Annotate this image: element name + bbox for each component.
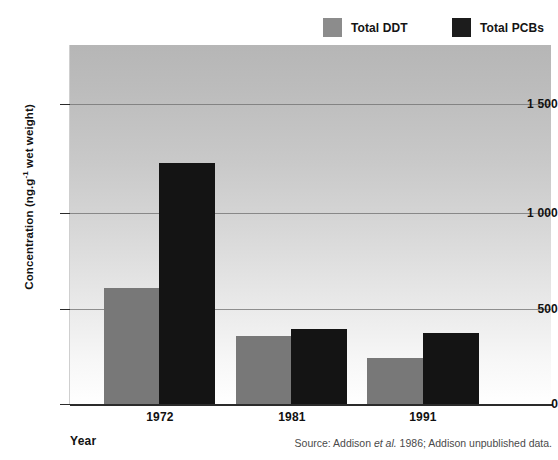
chart-legend: Total DDT Total PCBs: [0, 18, 558, 40]
x-axis-line: [70, 404, 553, 406]
chart-figure: Seals: organochlorines Total DDT Total P…: [0, 0, 558, 460]
gridline-1000: [70, 213, 551, 214]
bar-pcbs-1972: [159, 163, 215, 404]
legend-label-pcbs: Total PCBs: [480, 21, 544, 35]
y-axis-title: Concentration (ng.g-1 wet weight): [21, 82, 35, 312]
bar-ddt-1991: [367, 358, 423, 404]
bar-pcbs-1981: [291, 329, 347, 404]
y-tick-1000: [60, 213, 70, 214]
y-tick-0: [60, 404, 70, 405]
legend-item-total-pcbs: Total PCBs: [452, 18, 544, 37]
y-axis-title-exponent: -1: [21, 171, 30, 178]
source-note: Source: Addison et al. 1986; Addison unp…: [295, 437, 552, 449]
source-prefix: Source: Addison: [295, 437, 374, 449]
x-axis-title: Year: [70, 434, 97, 448]
y-axis-line: [69, 45, 70, 404]
legend-item-total-ddt: Total DDT: [323, 18, 408, 37]
y-tick-500: [60, 309, 70, 310]
source-italic: et al.: [374, 437, 397, 449]
x-tick-label-1981: 1981: [262, 410, 322, 424]
legend-swatch-icon-ddt: [323, 18, 342, 37]
y-axis-title-tail: wet weight): [23, 104, 35, 171]
y-tick-label-0: 0: [502, 397, 558, 411]
y-tick-1500: [60, 104, 70, 105]
y-tick-label-1000: 1 000: [502, 206, 558, 220]
plot-area: [70, 45, 551, 404]
y-tick-label-500: 500: [502, 302, 558, 316]
source-suffix: 1986; Addison unpublished data.: [397, 437, 552, 449]
gridline-1500: [70, 104, 551, 105]
y-tick-label-1500: 1 500: [502, 97, 558, 111]
x-tick-label-1991: 1991: [393, 410, 453, 424]
bar-ddt-1981: [236, 336, 291, 404]
bar-pcbs-1991: [423, 333, 479, 404]
x-tick-label-1972: 1972: [130, 410, 190, 424]
legend-label-ddt: Total DDT: [351, 21, 408, 35]
y-axis-title-main: Concentration (ng.g: [23, 179, 35, 290]
bar-ddt-1972: [104, 288, 159, 404]
legend-swatch-icon-pcbs: [452, 18, 471, 37]
